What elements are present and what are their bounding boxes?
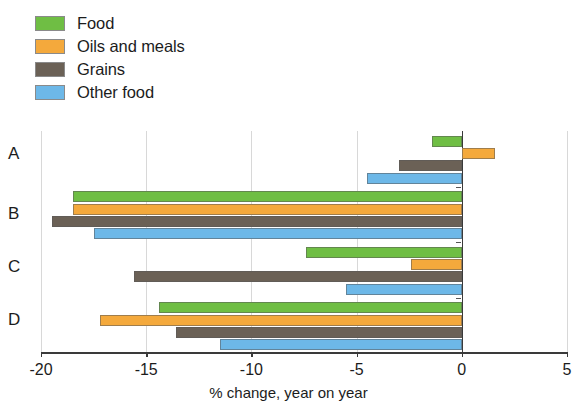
chart-legend: Food Oils and meals Grains Other food: [35, 12, 185, 104]
legend-swatch-other-food: [35, 85, 65, 100]
bar-d-food: [159, 302, 462, 313]
x-tick-0: [462, 352, 463, 357]
legend-swatch-grains: [35, 62, 65, 77]
bar-d-oils-and-meals: [100, 315, 462, 326]
legend-label-other-food: Other food: [77, 84, 154, 101]
bar-a-oils-and-meals: [462, 148, 496, 159]
legend-label-grains: Grains: [77, 61, 125, 78]
bar-c-grains: [134, 271, 462, 282]
x-tick-label--10: -10: [240, 362, 263, 378]
gridline-5: [567, 131, 568, 353]
legend-item-food: Food: [35, 12, 185, 35]
category-label-d: D: [8, 311, 20, 328]
x-axis-line: [41, 352, 567, 354]
bar-a-grains: [399, 160, 462, 171]
plot-area: [41, 131, 567, 353]
category-label-b: B: [8, 205, 19, 222]
x-tick-label-5: 5: [563, 362, 572, 378]
x-tick--15: [146, 352, 147, 357]
x-axis-title: % change, year on year: [0, 385, 577, 400]
zero-line: [462, 131, 464, 353]
y-minor-tick-1: [456, 187, 461, 188]
x-tick--20: [41, 352, 42, 357]
bar-c-other-food: [346, 284, 462, 295]
legend-swatch-food: [35, 16, 65, 31]
category-label-a: A: [8, 145, 19, 162]
gridline--20: [41, 131, 42, 353]
bar-b-grains: [52, 216, 462, 227]
x-tick-5: [567, 352, 568, 357]
bar-d-other-food: [220, 339, 462, 350]
legend-item-other-food: Other food: [35, 81, 185, 104]
bar-b-food: [73, 191, 462, 202]
bar-d-grains: [176, 327, 462, 338]
legend-label-food: Food: [77, 15, 114, 32]
bar-chart: Food Oils and meals Grains Other food A …: [0, 0, 577, 407]
legend-swatch-oils-and-meals: [35, 39, 65, 54]
bar-b-other-food: [94, 228, 462, 239]
legend-label-oils-and-meals: Oils and meals: [77, 38, 185, 55]
y-minor-tick-2: [456, 242, 461, 243]
bar-a-other-food: [367, 173, 462, 184]
category-label-c: C: [8, 258, 20, 275]
x-tick-label--15: -15: [135, 362, 158, 378]
x-tick-label-0: 0: [457, 362, 466, 378]
bar-a-food: [432, 136, 461, 147]
bar-c-food: [306, 247, 462, 258]
legend-item-grains: Grains: [35, 58, 185, 81]
x-tick-label--5: -5: [349, 362, 363, 378]
y-minor-tick-3: [456, 298, 461, 299]
bar-b-oils-and-meals: [73, 204, 462, 215]
x-tick--10: [251, 352, 252, 357]
x-tick--5: [357, 352, 358, 357]
bar-c-oils-and-meals: [411, 259, 461, 270]
x-tick-label--20: -20: [29, 362, 52, 378]
legend-item-oils-and-meals: Oils and meals: [35, 35, 185, 58]
